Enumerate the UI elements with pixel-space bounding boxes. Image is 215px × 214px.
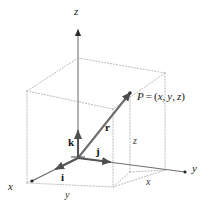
diagram-canvas	[0, 0, 215, 214]
dimension-label-x: x	[146, 177, 150, 187]
axis-lines	[32, 30, 185, 181]
bounding-box-edges	[27, 58, 165, 187]
point-p-equals: =	[146, 90, 152, 102]
unit-vector-i	[56, 158, 78, 169]
box-bottom-edge-front-right	[113, 170, 165, 187]
unit-vector-j	[78, 158, 110, 162]
point-p-label: P=(x,y,z)	[137, 91, 185, 102]
unit-vector-j-label: j	[96, 146, 100, 157]
point-p-coord-x: x	[158, 90, 163, 102]
box-bottom-edge-left-front	[27, 183, 113, 187]
box-top-edge-left-back	[27, 58, 78, 91]
point-p-name: P	[137, 90, 144, 102]
unit-vectors	[56, 131, 110, 169]
dimension-label-z: z	[133, 136, 137, 146]
box-top-edge-front-left	[27, 91, 113, 109]
position-vector-r-label: r	[105, 122, 110, 133]
x-axis-label: x	[8, 181, 13, 192]
box-top-edge-back-right	[78, 58, 165, 73]
unit-vector-k-label: k	[68, 137, 74, 148]
z-axis-label: z	[74, 6, 78, 17]
y-axis-label: y	[192, 163, 197, 174]
projection-line-base-to-front	[113, 172, 130, 187]
point-p-comma-1: ,	[163, 90, 166, 102]
point-p-marker	[128, 91, 132, 95]
vector-diagram-figure: z y x y x z k j i r P=(x,y,z)	[0, 0, 215, 214]
point-p-comma-2: ,	[172, 90, 175, 102]
point-p-close-paren: )	[181, 90, 185, 102]
position-vector-r	[78, 93, 130, 158]
unit-vector-i-label: i	[61, 172, 64, 183]
dimension-label-y: y	[65, 190, 69, 200]
